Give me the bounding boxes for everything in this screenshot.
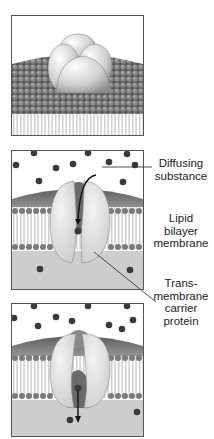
carrier-entering-illustration <box>12 151 143 289</box>
label-lipid-bilayer: Lipid bilayer membrane <box>148 212 214 250</box>
panel-substance-entering <box>11 150 144 290</box>
label-carrier-protein: Trans- membrane carrier protein <box>148 277 214 327</box>
label-line: substance <box>148 170 214 183</box>
label-line: Trans- <box>148 277 214 290</box>
label-line: carrier <box>148 302 214 315</box>
panel-substance-released <box>11 303 144 437</box>
label-line: Diffusing <box>148 157 214 170</box>
membrane-surface-illustration <box>12 16 143 135</box>
label-line: membrane <box>148 237 214 250</box>
label-line: protein <box>148 315 214 328</box>
label-line: bilayer <box>148 225 214 238</box>
carrier-releasing-illustration <box>12 304 143 436</box>
panel-membrane-surface <box>11 15 144 136</box>
carrier-protein-icon <box>50 181 110 263</box>
carrier-protein-icon <box>48 34 112 93</box>
label-line: membrane <box>148 290 214 303</box>
label-line: Lipid <box>148 212 214 225</box>
label-diffusing-substance: Diffusing substance <box>148 157 214 182</box>
